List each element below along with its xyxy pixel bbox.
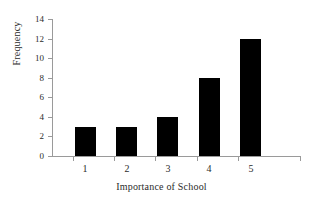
x-tick-mark [114,157,115,161]
x-tick-mark [73,157,74,161]
bar-chart: 02468101214 Frequency Importance of Scho… [0,0,323,202]
y-axis-title: Frequency [11,0,22,104]
y-tick-label: 6 [40,93,45,102]
x-tick-label: 2 [107,163,147,175]
bar [199,78,220,156]
bar [240,39,261,156]
y-tick-label: 8 [40,74,45,83]
bar [75,127,96,156]
x-tick-mark [300,157,301,161]
y-tick-label: 0 [40,152,45,161]
bar [116,127,137,156]
x-tick-mark [155,157,156,161]
y-tick-label: 10 [35,54,44,63]
x-tick-label: 1 [65,163,105,175]
y-tick-label: 2 [40,132,45,141]
x-axis-line [52,156,301,157]
plot-area [52,19,300,156]
x-tick-mark [238,157,239,161]
x-axis-title: Importance of School [0,181,323,193]
x-tick-label: 3 [148,163,188,175]
y-tick-mark [48,156,52,157]
y-tick-label: 4 [40,113,45,122]
y-tick-label: 12 [35,35,44,44]
x-tick-label: 4 [189,163,229,175]
bar [157,117,178,156]
x-tick-mark [197,157,198,161]
y-tick-label: 14 [35,15,44,24]
x-tick-label: 5 [231,163,271,175]
